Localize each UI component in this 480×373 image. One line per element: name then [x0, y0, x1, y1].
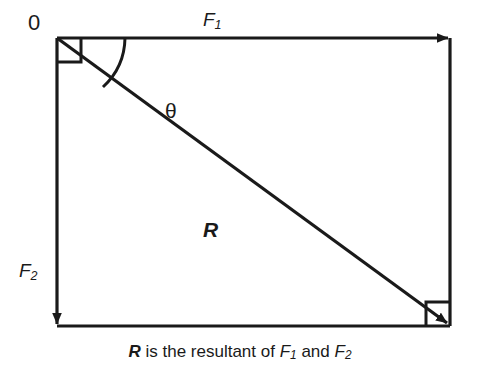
angle-theta-label: θ	[165, 100, 177, 121]
caption-force1-symbol: F	[280, 342, 290, 361]
origin-label: 0	[28, 12, 40, 34]
caption-force2-symbol: F	[335, 342, 345, 361]
force1-label: F1	[203, 10, 222, 31]
caption-force1-subscript: 1	[290, 348, 297, 362]
resultant-vector-line	[57, 38, 447, 323]
force1-subscript: 1	[215, 18, 222, 32]
figure-caption: R is the resultant of F1 and F2	[0, 343, 480, 362]
force2-subscript: 2	[31, 269, 38, 283]
caption-force2-subscript: 2	[345, 348, 352, 362]
vector-diagram-canvas	[0, 0, 480, 373]
force2-symbol: F	[19, 260, 31, 281]
caption-text-and: and	[297, 342, 335, 361]
force1-symbol: F	[203, 9, 215, 30]
caption-resultant-symbol: R	[128, 342, 140, 361]
resultant-label: R	[203, 219, 218, 240]
caption-text-mid: is the resultant of	[141, 342, 280, 361]
vector-diagram-figure: 0 F1 F2 θ R R is the resultant of F1 and…	[0, 0, 480, 373]
force2-label: F2	[19, 261, 38, 282]
